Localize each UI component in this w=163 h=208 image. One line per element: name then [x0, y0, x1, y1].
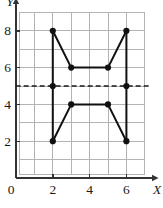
coordinate-plane-svg: 24624680XY	[0, 0, 163, 208]
y-tick-label: 8	[4, 23, 11, 38]
x-tick-label: 6	[123, 182, 130, 197]
x-tick-label: 4	[86, 182, 93, 197]
y-tick-label: 4	[4, 97, 11, 112]
origin-label: 0	[8, 182, 15, 197]
data-point-marker	[123, 138, 129, 144]
y-axis-label: Y	[6, 0, 15, 9]
x-axis-arrowhead	[152, 175, 159, 181]
data-point-marker	[123, 28, 129, 34]
data-point-marker	[105, 65, 111, 71]
x-tick-label: 2	[49, 182, 56, 197]
data-point-marker	[123, 83, 129, 89]
data-point-marker	[105, 101, 111, 107]
data-point-marker	[50, 138, 56, 144]
data-point-marker	[68, 101, 74, 107]
data-point-marker	[50, 83, 56, 89]
data-point-marker	[50, 28, 56, 34]
y-tick-label: 6	[4, 60, 11, 75]
x-axis-label: X	[152, 182, 162, 197]
y-tick-label: 2	[4, 134, 11, 149]
data-point-marker	[68, 65, 74, 71]
coordinate-plane-figure: 24624680XY	[0, 0, 163, 208]
